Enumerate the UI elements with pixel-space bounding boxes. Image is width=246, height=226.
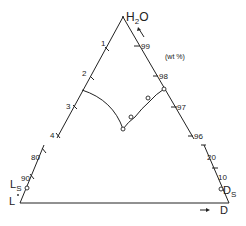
tick-label-20: 20 [207,153,216,162]
tick-label-98: 98 [159,72,168,81]
d-corner-label: D [220,204,228,216]
l-corner-mark [17,194,19,196]
right-boundary-curve [123,89,164,129]
ls-label: LS [10,178,21,193]
ternary-diagram: H2O (wt %) 1 2 3 4 99 98 97 96 80 90 20 … [0,0,246,226]
point-right-end [162,87,166,91]
left-boundary-curve [82,90,123,129]
apex-label: H2O [126,10,148,26]
tick-label-10: 10 [218,173,227,182]
ds-label: DS [223,184,236,199]
tick-label-97: 97 [177,103,186,112]
tick-label-80: 80 [31,153,40,162]
left-upper-side [57,17,123,138]
point-right-2 [146,96,150,100]
units-label: (wt %) [165,53,185,61]
tick-label-2: 2 [82,69,87,78]
d-arrowhead-icon [206,208,210,212]
tick-label-1: 1 [101,39,106,48]
tick-label-90: 90 [21,174,30,183]
point-min [121,127,125,131]
apex-dot [122,16,124,18]
l-corner-label: L [9,195,15,207]
point-right-1 [129,115,133,119]
tick-label-96: 96 [194,132,203,141]
tick-label-99: 99 [141,42,150,51]
tick-2 [90,76,94,80]
tick-label-3: 3 [66,102,71,111]
point-ls [25,186,29,190]
tick-80 [42,148,46,153]
tick-label-4: 4 [50,131,55,140]
